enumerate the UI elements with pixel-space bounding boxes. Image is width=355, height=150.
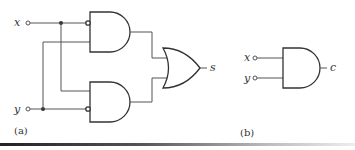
input-label-y-a: y	[13, 103, 21, 116]
input-label-y-b: y	[243, 72, 251, 85]
caption-a: (a)	[14, 125, 28, 136]
half-adder-diagram: x y s (a) x y	[0, 0, 355, 150]
input-terminal-x-a	[26, 21, 30, 25]
input-label-x-b: x	[244, 51, 251, 64]
input-terminal-y-a	[26, 107, 30, 111]
input-terminal-x-b	[253, 56, 257, 60]
output-label-c: c	[330, 61, 336, 74]
and-gate-top	[90, 12, 130, 52]
wire-top-and-to-or	[130, 32, 170, 58]
wire-y-to-top-and	[43, 42, 90, 109]
and-gate-b	[283, 48, 320, 88]
input-terminal-y-b	[253, 76, 257, 80]
wire-bottom-and-to-or	[130, 78, 170, 102]
wire-x-to-bottom-and	[61, 23, 90, 91]
circuit-b: x y c (b)	[240, 48, 336, 138]
caption-b: (b)	[240, 127, 254, 138]
and-gate-bottom	[90, 82, 130, 122]
or-gate	[163, 48, 200, 88]
inversion-bubble-y	[86, 107, 90, 111]
circuit-a: x y s (a)	[13, 12, 216, 136]
inversion-bubble-x	[86, 21, 90, 25]
bottom-rule	[0, 143, 355, 146]
output-label-s: s	[210, 61, 216, 74]
input-label-x-a: x	[14, 16, 21, 29]
